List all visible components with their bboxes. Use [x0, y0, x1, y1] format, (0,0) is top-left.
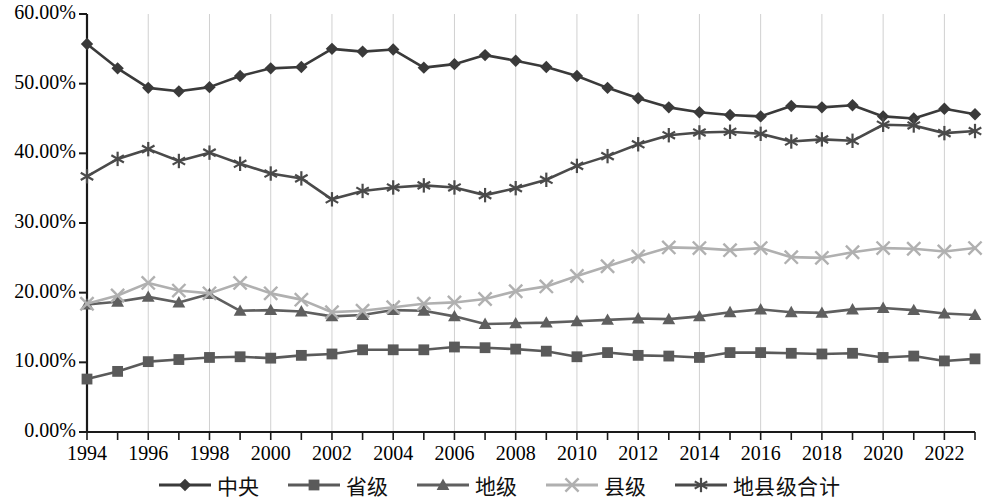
series-4 — [81, 118, 982, 207]
data-point-square — [755, 347, 766, 358]
data-point-square — [939, 356, 950, 367]
y-tick-label: 0.00% — [0, 419, 76, 442]
data-point-square — [296, 350, 307, 361]
data-point-square — [663, 351, 674, 362]
data-point-asterisk — [571, 159, 584, 173]
legend-label-4: 地县级合计 — [733, 470, 841, 500]
data-point-asterisk — [142, 142, 155, 156]
data-point-diamond — [724, 109, 736, 121]
y-tick-label: 60.00% — [0, 1, 76, 24]
data-point-diamond — [265, 62, 277, 74]
y-tick-label: 10.00% — [0, 349, 76, 372]
series-2 — [81, 288, 982, 329]
legend-label-3: 县级 — [604, 470, 647, 500]
series-line — [87, 247, 975, 312]
legend-item-1[interactable]: 省级 — [286, 470, 389, 500]
legend-marker-asterisk-icon — [673, 474, 729, 496]
data-point-diamond — [179, 479, 191, 491]
data-point-diamond — [418, 61, 430, 73]
data-point-asterisk — [601, 149, 614, 163]
data-point-diamond — [356, 45, 368, 57]
data-point-diamond — [234, 70, 246, 82]
data-point-square — [204, 352, 215, 363]
data-point-square — [878, 352, 889, 363]
data-point-square — [602, 347, 613, 358]
chart-legend: 中央省级地级县级地县级合计 — [0, 466, 997, 504]
data-point-diamond — [785, 100, 797, 112]
data-point-asterisk — [234, 157, 247, 171]
series-line — [87, 125, 975, 200]
y-tick-label: 20.00% — [0, 280, 76, 303]
legend-marker-triangle-icon — [415, 474, 471, 496]
axis-lines — [79, 14, 975, 440]
series-3 — [80, 241, 981, 319]
data-point-square — [143, 356, 154, 367]
data-point-square — [633, 350, 644, 361]
legend-label-1: 省级 — [346, 470, 389, 500]
data-point-diamond — [173, 85, 185, 97]
data-point-diamond — [571, 70, 583, 82]
legend-marker-square-icon — [286, 474, 342, 496]
grid-lines — [148, 14, 944, 432]
data-point-diamond — [938, 103, 950, 115]
data-point-square — [235, 351, 246, 362]
data-point-diamond — [663, 101, 675, 113]
data-point-diamond — [693, 106, 705, 118]
data-point-triangle — [142, 290, 155, 301]
line-chart: 0.00%10.00%20.00%30.00%40.00%50.00%60.00… — [0, 0, 997, 504]
data-point-diamond — [448, 58, 460, 70]
data-point-diamond — [295, 61, 307, 73]
series-1 — [82, 342, 981, 385]
data-point-square — [572, 351, 583, 362]
data-point-diamond — [540, 61, 552, 73]
legend-item-0[interactable]: 中央 — [157, 470, 260, 500]
legend-label-0: 中央 — [217, 470, 260, 500]
data-point-square — [816, 349, 827, 360]
data-point-square — [173, 354, 184, 365]
data-point-x — [601, 260, 614, 273]
data-point-diamond — [387, 43, 399, 55]
series-0 — [81, 38, 981, 125]
data-point-square — [265, 353, 276, 364]
data-point-square — [970, 353, 981, 364]
y-tick-label: 30.00% — [0, 210, 76, 233]
legend-item-4[interactable]: 地县级合计 — [673, 470, 841, 500]
data-point-x — [234, 276, 247, 289]
data-point-square — [847, 348, 858, 359]
data-point-asterisk — [111, 152, 124, 166]
legend-label-2: 地级 — [475, 470, 518, 500]
legend-marker-x-icon — [544, 474, 600, 496]
series-line — [87, 44, 975, 119]
data-point-diamond — [601, 82, 613, 94]
data-point-square — [694, 352, 705, 363]
data-point-square — [725, 347, 736, 358]
data-point-square — [308, 480, 319, 491]
data-point-square — [908, 351, 919, 362]
x-tick-label: 2022 — [904, 442, 984, 465]
legend-item-3[interactable]: 县级 — [544, 470, 647, 500]
data-point-square — [786, 348, 797, 359]
series-layer — [80, 38, 981, 385]
legend-marker-diamond-icon — [157, 474, 213, 496]
data-point-asterisk — [81, 169, 94, 183]
data-point-square — [388, 344, 399, 355]
data-point-square — [449, 342, 460, 353]
data-point-diamond — [969, 108, 981, 120]
data-point-square — [82, 374, 93, 385]
data-point-diamond — [326, 43, 338, 55]
data-point-diamond — [142, 82, 154, 94]
data-point-square — [480, 342, 491, 353]
data-point-square — [510, 344, 521, 355]
data-point-square — [112, 366, 123, 377]
series-line — [87, 347, 975, 379]
legend-item-2[interactable]: 地级 — [415, 470, 518, 500]
data-point-square — [327, 349, 338, 360]
data-point-diamond — [509, 54, 521, 66]
data-point-diamond — [816, 101, 828, 113]
data-point-diamond — [754, 110, 766, 122]
data-point-diamond — [846, 99, 858, 111]
data-point-square — [357, 344, 368, 355]
data-point-square — [418, 344, 429, 355]
series-line — [87, 294, 975, 324]
data-point-diamond — [479, 49, 491, 61]
